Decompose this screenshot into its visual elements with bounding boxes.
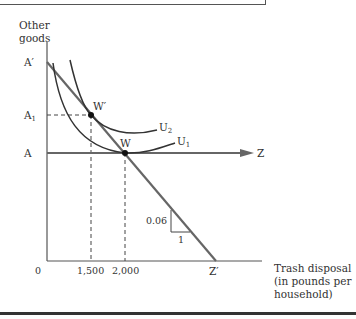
- point-w-prime: [88, 112, 94, 118]
- slope-run-label: 1: [178, 234, 184, 246]
- y-axis-title: Other goods: [19, 19, 50, 45]
- point-w: [122, 150, 128, 156]
- u1-label: U1: [177, 135, 190, 151]
- z-arrowhead: [240, 149, 254, 157]
- z-label: Z: [257, 147, 264, 159]
- w-label: W: [120, 137, 131, 149]
- w-prime-label: W′: [93, 100, 106, 112]
- indifference-curve-u2: [70, 60, 157, 133]
- u2-label: U2: [159, 121, 172, 137]
- budget-line: [47, 62, 216, 261]
- z-prime-label: Z′: [209, 265, 219, 277]
- x-tick-2000: 2,000: [112, 265, 139, 277]
- origin-label: 0: [35, 265, 41, 277]
- a-prime-label: A′: [24, 56, 34, 68]
- x-axis-title: Trash disposal (in pounds per household): [274, 262, 352, 301]
- bottom-rule: [0, 312, 356, 315]
- slope-rise-label: 0.06: [146, 215, 167, 227]
- a-label: A: [24, 147, 32, 159]
- x-tick-1500: 1,500: [77, 265, 104, 277]
- a1-label: A1: [24, 109, 36, 125]
